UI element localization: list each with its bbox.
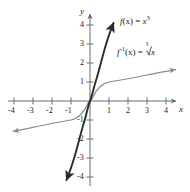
y-tick-label-4: 4 bbox=[80, 21, 84, 29]
x-tick-label--2: -2 bbox=[46, 107, 53, 115]
label-cubic-function: f(x) = x3 bbox=[120, 17, 150, 26]
y-tick-label--1: -1 bbox=[77, 116, 84, 124]
y-axis-label: y bbox=[80, 7, 84, 16]
x-tick-label--1: -1 bbox=[65, 107, 72, 115]
label-cubic-exponent: 3 bbox=[147, 14, 150, 21]
x-tick-label-2: 2 bbox=[126, 107, 130, 115]
y-tick-label--2: -2 bbox=[77, 135, 84, 143]
x-axis-label: x bbox=[179, 105, 183, 114]
radical-index: 3 bbox=[146, 42, 149, 48]
radical-sign-icon: 3x bbox=[145, 46, 155, 57]
y-tick-label-1: 1 bbox=[80, 78, 84, 86]
y-tick-label--4: -4 bbox=[77, 173, 84, 181]
y-tick-label-3: 3 bbox=[80, 40, 84, 48]
x-tick-label-1: 1 bbox=[107, 107, 111, 115]
graph-figure: -4 -3 -2 -1 1 2 3 4 4 3 2 1 -1 -2 -3 -4 … bbox=[0, 0, 190, 192]
x-tick-label-4: 4 bbox=[164, 107, 168, 115]
label-cubic-arg: (x) = bbox=[123, 16, 143, 26]
y-tick-label--3: -3 bbox=[77, 154, 84, 162]
label-inverse-function: f-1(x) = 3x bbox=[117, 46, 155, 57]
label-inverse-arg: (x) = bbox=[125, 47, 145, 57]
label-inverse-radicand: x bbox=[151, 47, 155, 57]
x-tick-label--3: -3 bbox=[27, 107, 34, 115]
coordinate-plane bbox=[0, 0, 190, 192]
x-tick-label--4: -4 bbox=[8, 107, 15, 115]
x-tick-label-3: 3 bbox=[145, 107, 149, 115]
y-tick-label-2: 2 bbox=[80, 59, 84, 67]
